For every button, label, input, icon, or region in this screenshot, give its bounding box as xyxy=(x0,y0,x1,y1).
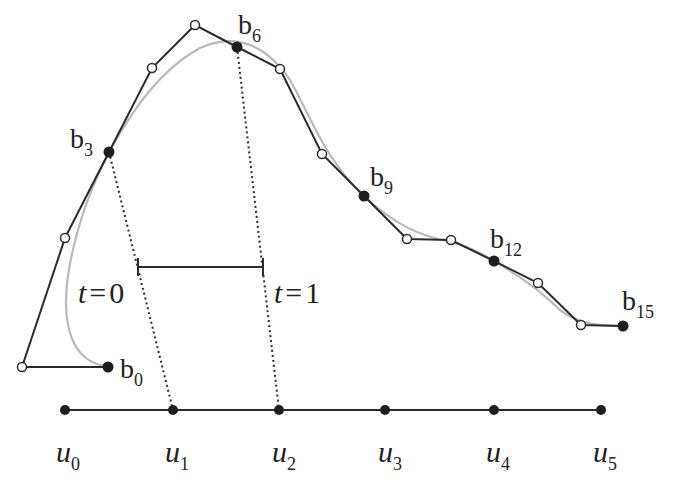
control-point-open xyxy=(276,65,285,74)
label-b12: b12 xyxy=(490,223,522,260)
control-polygon xyxy=(22,25,623,367)
label-u2: u2 xyxy=(272,435,296,474)
label-u5: u5 xyxy=(593,435,617,474)
open-control-points xyxy=(18,21,586,372)
point-b0 xyxy=(103,362,114,373)
label-t0: t=0 xyxy=(78,276,124,309)
label-t1: t=1 xyxy=(274,276,320,309)
label-b0: b0 xyxy=(120,353,143,390)
point-b12 xyxy=(489,256,500,267)
label-b9: b9 xyxy=(370,161,393,198)
control-point-open xyxy=(61,234,70,243)
point-b15 xyxy=(618,321,629,332)
label-u4: u4 xyxy=(486,435,510,474)
knot-u3 xyxy=(380,405,390,415)
point-b3 xyxy=(104,147,115,158)
control-point-open xyxy=(534,279,543,288)
b-spline-diagram: b0 b3 b6 b9 b12 b15 t=0 t=1 u0 u1 u2 u3 … xyxy=(0,0,673,483)
knot-u0 xyxy=(60,405,70,415)
knot-u5 xyxy=(596,405,606,415)
local-parameter-interval xyxy=(138,258,263,276)
control-point-open xyxy=(191,21,200,30)
label-b3: b3 xyxy=(70,123,93,160)
label-u0: u0 xyxy=(56,435,80,474)
label-u1: u1 xyxy=(165,435,189,474)
label-u3: u3 xyxy=(378,435,402,474)
dotted-line-b6-u2 xyxy=(237,47,279,410)
knot-u4 xyxy=(489,405,499,415)
junction-points xyxy=(103,42,629,373)
point-b6 xyxy=(232,42,243,53)
control-point-open xyxy=(18,363,27,372)
knot-u2 xyxy=(274,405,284,415)
control-point-open xyxy=(318,150,327,159)
label-b6: b6 xyxy=(238,9,261,46)
control-point-open xyxy=(148,64,157,73)
control-point-open xyxy=(447,236,456,245)
control-point-open xyxy=(403,235,412,244)
control-point-open xyxy=(577,321,586,330)
knot-u1 xyxy=(168,405,178,415)
label-b15: b15 xyxy=(622,285,654,322)
point-b9 xyxy=(359,191,370,202)
